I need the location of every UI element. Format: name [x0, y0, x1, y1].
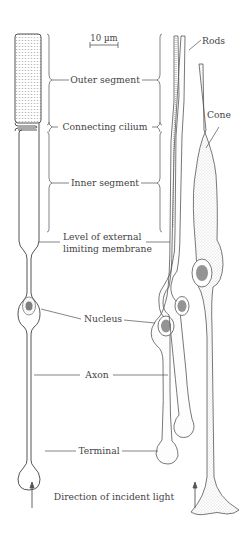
caption-direction: Direction of incident light — [54, 491, 175, 502]
label-connecting-cilium: Connecting cilium — [63, 121, 148, 132]
label-terminal: Terminal — [78, 445, 119, 456]
label-elm-line2: limiting membrane — [63, 243, 152, 254]
label-inner-segment: Inner segment — [71, 177, 139, 188]
label-axon: Axon — [84, 369, 108, 380]
realistic-cells — [151, 36, 239, 515]
label-elm-line1: Level of external — [63, 231, 141, 242]
schematic-rod — [15, 34, 41, 490]
outer-segment-shape — [15, 34, 41, 123]
cone-cell — [191, 64, 239, 515]
up-arrow-icon-left — [30, 482, 34, 488]
label-nucleus: Nucleus — [84, 313, 122, 324]
up-arrow-icon-right — [193, 482, 197, 488]
scale-bar-label: 10 µm — [90, 33, 117, 43]
label-rods: Rods — [202, 35, 225, 46]
photoreceptor-diagram: 10 µm Outer segment Connecting cilium In… — [0, 0, 249, 534]
label-outer-segment: Outer segment — [70, 74, 140, 85]
label-cone: Cone — [207, 109, 231, 120]
